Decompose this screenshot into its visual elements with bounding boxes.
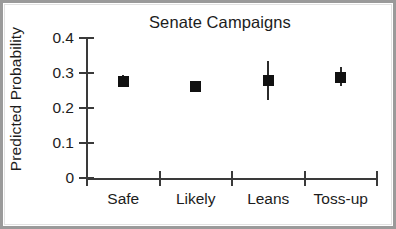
y-axis-tick xyxy=(79,37,94,39)
y-axis-tick xyxy=(79,107,94,109)
data-point-marker xyxy=(190,81,201,92)
x-axis-tick xyxy=(376,171,378,186)
chart-title: Senate Campaigns xyxy=(70,13,370,32)
figure-container: Senate Campaigns Predicted Probability 0… xyxy=(0,0,396,229)
data-point-marker xyxy=(263,75,274,86)
y-axis-tick-label: 0 xyxy=(14,170,74,186)
y-axis-tick xyxy=(79,142,94,144)
plot-area: Senate Campaigns Predicted Probability 0… xyxy=(0,0,396,229)
data-point-marker xyxy=(335,72,346,83)
y-axis-tick-label: 0.2 xyxy=(14,100,74,116)
x-axis-tick xyxy=(159,171,161,186)
y-axis-tick-label: 0.3 xyxy=(14,65,74,81)
x-axis-category-label: Toss-up xyxy=(296,190,386,208)
data-point-marker xyxy=(118,76,129,87)
y-axis-tick-label: 0.4 xyxy=(14,30,74,46)
y-axis-tick xyxy=(79,72,94,74)
y-axis-tick-label: 0.1 xyxy=(14,135,74,151)
x-axis-tick xyxy=(86,171,88,186)
x-axis-tick xyxy=(304,171,306,186)
x-axis-tick xyxy=(231,171,233,186)
